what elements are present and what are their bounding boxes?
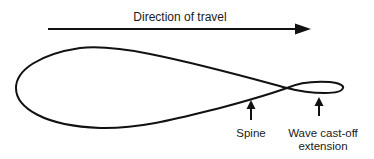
direction-arrow	[48, 24, 311, 35]
direction-of-travel-label: Direction of travel	[120, 11, 240, 24]
wave-castoff-label: Wave cast-off extension	[278, 127, 368, 153]
wave-castoff-label-line2: extension	[278, 140, 368, 153]
spine-arrow	[247, 100, 256, 120]
direction-arrow-head-icon	[295, 24, 311, 35]
wave-castoff-arrow	[315, 97, 324, 116]
wave-castoff-label-line1: Wave cast-off	[278, 127, 368, 140]
main-loop-curve	[16, 47, 287, 128]
cast-off-loop-curve	[287, 82, 343, 93]
wave-arrow-head-icon	[315, 97, 324, 106]
spine-label: Spine	[221, 127, 281, 140]
hull-wave-diagram: Direction of travel Spine Wave cast-off …	[0, 0, 374, 159]
spine-arrow-head-icon	[247, 100, 256, 109]
